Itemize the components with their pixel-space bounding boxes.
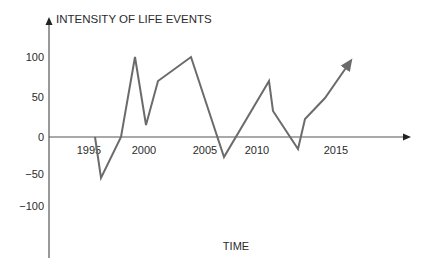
- x-tick-label: 2010: [245, 144, 269, 156]
- line-chart: INTENSITY OF LIFE EVENTS 100 50 0 −50 −1…: [0, 0, 431, 272]
- y-tick-label: 0: [38, 131, 44, 143]
- x-tick-label: 2005: [193, 144, 217, 156]
- x-axis-arrow-icon: [403, 134, 411, 141]
- x-tick-label: 2015: [324, 144, 348, 156]
- y-axis-arrow-icon: [46, 17, 53, 25]
- x-tick-label: 2000: [132, 144, 156, 156]
- y-tick-label: −100: [19, 200, 44, 212]
- y-axis-title: INTENSITY OF LIFE EVENTS: [56, 13, 212, 25]
- y-tick-label: 50: [32, 91, 44, 103]
- y-tick-label: −50: [25, 168, 44, 180]
- intensity-line: [95, 57, 350, 178]
- x-axis-title: TIME: [223, 240, 249, 252]
- y-tick-label: 100: [26, 51, 44, 63]
- x-axis: 1995 2000 2005 2010 2015 TIME: [49, 134, 411, 253]
- y-axis: INTENSITY OF LIFE EVENTS 100 50 0 −50 −1…: [19, 13, 212, 258]
